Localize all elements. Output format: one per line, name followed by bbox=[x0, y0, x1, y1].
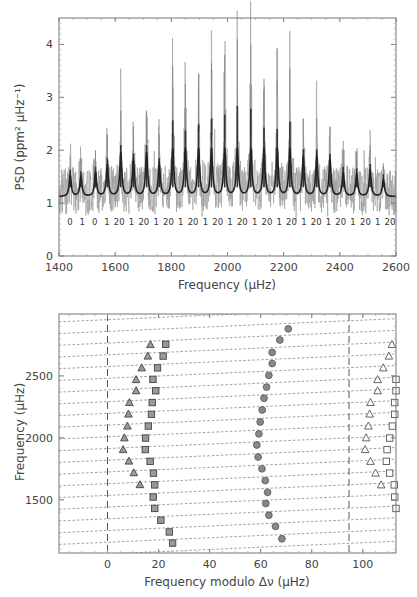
marker-triangle bbox=[367, 399, 375, 406]
marker-circle bbox=[259, 407, 266, 414]
marker-circle bbox=[262, 477, 269, 484]
marker-square bbox=[384, 446, 390, 452]
marker-triangle bbox=[132, 387, 140, 394]
x-tick-label: 80 bbox=[305, 558, 319, 571]
ridge-line bbox=[59, 412, 396, 427]
marker-circle bbox=[269, 349, 276, 356]
marker-triangle bbox=[126, 399, 134, 406]
ridge-line bbox=[59, 459, 396, 474]
marker-circle bbox=[269, 360, 276, 367]
marker-triangle bbox=[367, 457, 375, 464]
mode-degree-label: 1 bbox=[350, 217, 355, 227]
x-tick-label: 2400 bbox=[326, 261, 354, 274]
mode-degree-label: 0 bbox=[92, 217, 97, 227]
marker-triangle bbox=[385, 352, 393, 359]
marker-square bbox=[158, 517, 164, 523]
x-tick-label: 1800 bbox=[157, 261, 185, 274]
ridge-line bbox=[59, 494, 396, 509]
y-tick-label: 3 bbox=[46, 91, 53, 104]
mode-degree-label: 1 bbox=[326, 217, 331, 227]
marker-triangle bbox=[388, 341, 396, 348]
mode-degree-label: 0 bbox=[67, 217, 72, 227]
mode-degree-label: 1 bbox=[277, 217, 282, 227]
marker-square bbox=[152, 505, 158, 511]
marker-square bbox=[392, 411, 398, 417]
marker-triangle bbox=[132, 376, 140, 383]
marker-square bbox=[150, 376, 156, 382]
marker-triangle bbox=[125, 410, 133, 417]
mode-degree-label: 1 bbox=[80, 217, 85, 227]
marker-circle bbox=[259, 465, 266, 472]
psd-data-layer bbox=[59, 1, 396, 220]
echelle-y-axis-label: Frequency (μHz) bbox=[13, 383, 27, 481]
x-tick-label: 0 bbox=[104, 558, 111, 571]
marker-triangle bbox=[374, 376, 382, 383]
marker-circle bbox=[265, 512, 272, 519]
marker-square bbox=[392, 399, 398, 405]
echelle-vertical-dashed-lines bbox=[108, 314, 350, 553]
ridge-line bbox=[59, 330, 396, 345]
marker-circle bbox=[257, 419, 264, 426]
marker-circle bbox=[276, 337, 283, 344]
x-tick-label: 60 bbox=[254, 558, 268, 571]
ridge-line bbox=[59, 354, 396, 369]
marker-square bbox=[169, 540, 175, 546]
marker-triangle bbox=[362, 434, 370, 441]
echelle-ridge-lines bbox=[59, 295, 396, 579]
marker-square bbox=[149, 399, 155, 405]
mode-degree-label: 20 bbox=[138, 217, 149, 227]
ridge-line bbox=[59, 506, 396, 521]
psd-x-axis-label: Frequency (μHz) bbox=[178, 278, 276, 292]
mode-degree-label: 20 bbox=[286, 217, 297, 227]
y-tick-label: 1500 bbox=[25, 494, 53, 507]
marker-square bbox=[142, 446, 148, 452]
ridge-line bbox=[59, 518, 396, 533]
mode-degree-labels: 010120120120120120120120120120120120120 bbox=[67, 217, 395, 227]
ridge-line bbox=[59, 389, 396, 404]
mode-degree-label: 1 bbox=[375, 217, 380, 227]
marker-square bbox=[389, 423, 395, 429]
x-tick-label: 20 bbox=[152, 558, 166, 571]
mode-degree-label: 1 bbox=[178, 217, 183, 227]
ridge-line bbox=[59, 483, 396, 498]
marker-triangle bbox=[372, 469, 380, 476]
x-tick-label: 2200 bbox=[270, 261, 298, 274]
marker-square bbox=[152, 482, 158, 488]
marker-triangle bbox=[125, 457, 133, 464]
ridge-line bbox=[59, 541, 396, 556]
mode-degree-label: 1 bbox=[301, 217, 306, 227]
mode-degree-label: 1 bbox=[129, 217, 134, 227]
echelle-x-axis-label: Frequency modulo Δν (μHz) bbox=[144, 575, 310, 589]
ridge-line bbox=[59, 295, 396, 310]
marker-square bbox=[154, 365, 160, 371]
y-tick-label: 0 bbox=[46, 250, 53, 263]
marker-square bbox=[386, 470, 392, 476]
mode-degree-label: 20 bbox=[335, 217, 346, 227]
marker-triangle bbox=[147, 341, 155, 348]
ridge-line bbox=[59, 366, 396, 381]
marker-triangle bbox=[124, 422, 132, 429]
marker-triangle bbox=[136, 481, 144, 488]
mode-degree-label: 20 bbox=[311, 217, 322, 227]
marker-triangle bbox=[374, 387, 382, 394]
marker-circle bbox=[262, 500, 269, 507]
marker-square bbox=[166, 529, 172, 535]
marker-circle bbox=[256, 430, 263, 437]
mode-degree-label: 1 bbox=[104, 217, 109, 227]
marker-square bbox=[147, 458, 153, 464]
ridge-line bbox=[59, 424, 396, 439]
y-tick-label: 2500 bbox=[25, 370, 53, 383]
ridge-line bbox=[59, 448, 396, 463]
y-tick-label: 4 bbox=[46, 38, 53, 51]
x-tick-label: 40 bbox=[203, 558, 217, 571]
marker-square bbox=[163, 341, 169, 347]
mode-degree-label: 1 bbox=[203, 217, 208, 227]
x-tick-label: 2000 bbox=[214, 261, 242, 274]
marker-circle bbox=[253, 442, 260, 449]
marker-circle bbox=[264, 489, 271, 496]
marker-square bbox=[383, 458, 389, 464]
ridge-line bbox=[59, 471, 396, 486]
mode-degree-label: 1 bbox=[153, 217, 158, 227]
marker-circle bbox=[272, 523, 279, 530]
mode-degree-label: 20 bbox=[212, 217, 223, 227]
